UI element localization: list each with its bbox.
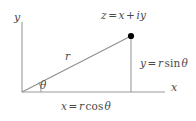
- adjacent-leg-label: x=rcosθ: [61, 101, 111, 112]
- x-axis-label: x: [171, 82, 177, 93]
- equals-sign: =: [146, 57, 158, 69]
- radius-label: r: [65, 51, 70, 62]
- point-label-z: z=x+iy: [101, 10, 146, 21]
- theta-symbol: θ: [180, 57, 187, 69]
- equals-sign: =: [67, 100, 79, 112]
- cos-function-name: cos: [84, 100, 103, 112]
- z-symbol: z: [101, 9, 107, 21]
- opposite-leg-label: y=rsinθ: [140, 58, 188, 69]
- equals-sign: =: [107, 9, 119, 21]
- radius-line: [22, 36, 131, 92]
- angle-label-theta: θ: [40, 80, 46, 91]
- real-part-symbol: x: [119, 9, 125, 21]
- theta-symbol: θ: [103, 100, 110, 112]
- complex-plane-diagram: y x z=x+iy r θ y=rsinθ x=rcosθ: [0, 0, 196, 121]
- y-axis-label: y: [14, 12, 20, 23]
- sin-function-name: sin: [163, 57, 180, 69]
- imaginary-part-symbol: iy: [136, 9, 146, 21]
- point-marker: [128, 33, 134, 39]
- plus-sign: +: [125, 9, 137, 21]
